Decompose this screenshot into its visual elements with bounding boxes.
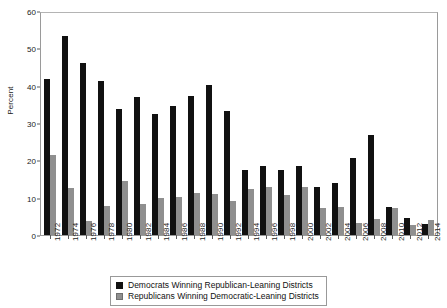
y-tick-mark bbox=[37, 161, 40, 162]
x-tick-mark bbox=[230, 235, 231, 239]
legend-label-republicans: Republicans Winning Democratic-Leaning D… bbox=[128, 291, 319, 302]
x-tick-mark bbox=[248, 235, 249, 239]
x-tick-mark bbox=[158, 235, 159, 239]
x-tick-mark bbox=[338, 235, 339, 239]
x-tick-label: 1972 bbox=[53, 223, 62, 241]
x-tick-mark bbox=[176, 235, 177, 239]
bar-group bbox=[311, 13, 329, 235]
y-tick-label: 30 bbox=[14, 120, 36, 129]
x-tick-label: 1996 bbox=[270, 223, 279, 241]
bars-layer bbox=[41, 13, 437, 235]
y-tick-mark bbox=[37, 124, 40, 125]
y-tick-label: 10 bbox=[14, 194, 36, 203]
bar-group bbox=[77, 13, 95, 235]
y-tick-label: 50 bbox=[14, 45, 36, 54]
legend-swatch-democrats-icon bbox=[116, 282, 123, 289]
x-tick-label: 2010 bbox=[397, 223, 406, 241]
bar-group bbox=[401, 13, 419, 235]
x-tick-mark bbox=[392, 235, 393, 239]
bar-group bbox=[149, 13, 167, 235]
x-tick-mark bbox=[428, 235, 429, 239]
x-tick-label: 1992 bbox=[234, 223, 243, 241]
x-tick-mark bbox=[356, 235, 357, 239]
bar-group bbox=[59, 13, 77, 235]
x-tick-label: 2006 bbox=[361, 223, 370, 241]
x-tick-label: 2000 bbox=[306, 223, 315, 241]
x-tick-label: 1986 bbox=[180, 223, 189, 241]
plot-area bbox=[40, 12, 438, 236]
x-tick-mark bbox=[122, 235, 123, 239]
x-tick-mark bbox=[320, 235, 321, 239]
y-tick-mark bbox=[37, 12, 40, 13]
legend-label-democrats: Democrats Winning Republican-Leaning Dis… bbox=[128, 280, 313, 291]
x-tick-mark bbox=[140, 235, 141, 239]
y-tick-label: 40 bbox=[14, 82, 36, 91]
chart-legend: Democrats Winning Republican-Leaning Dis… bbox=[110, 276, 327, 306]
x-tick-label: 2014 bbox=[433, 223, 442, 241]
bar-group bbox=[239, 13, 257, 235]
bar-group bbox=[347, 13, 365, 235]
y-tick-mark bbox=[37, 86, 40, 87]
plot-inner bbox=[41, 13, 437, 235]
bar-chart: Percent 0102030405060 197219741976197819… bbox=[0, 0, 447, 308]
legend-item: Democrats Winning Republican-Leaning Dis… bbox=[116, 280, 319, 291]
x-tick-mark bbox=[194, 235, 195, 239]
bar-group bbox=[185, 13, 203, 235]
x-tick-mark bbox=[302, 235, 303, 239]
x-tick-label: 1976 bbox=[89, 223, 98, 241]
x-tick-label: 1990 bbox=[216, 223, 225, 241]
bar-group bbox=[131, 13, 149, 235]
bar-group bbox=[293, 13, 311, 235]
legend-item: Republicans Winning Democratic-Leaning D… bbox=[116, 291, 319, 302]
bar-group bbox=[383, 13, 401, 235]
x-tick-label: 1994 bbox=[252, 223, 261, 241]
y-tick-label: 0 bbox=[14, 232, 36, 241]
x-tick-label: 1978 bbox=[107, 223, 116, 241]
bar-group bbox=[203, 13, 221, 235]
bar-group bbox=[419, 13, 437, 235]
y-tick-label: 60 bbox=[14, 8, 36, 17]
x-tick-label: 1998 bbox=[288, 223, 297, 241]
x-tick-label: 1974 bbox=[71, 223, 80, 241]
bar-democrats bbox=[80, 63, 86, 235]
bar-group bbox=[257, 13, 275, 235]
x-tick-label: 1988 bbox=[198, 223, 207, 241]
bar-group bbox=[167, 13, 185, 235]
bar-group bbox=[95, 13, 113, 235]
x-tick-label: 1982 bbox=[144, 223, 153, 241]
x-tick-mark bbox=[284, 235, 285, 239]
x-tick-mark bbox=[410, 235, 411, 239]
y-tick-mark bbox=[37, 49, 40, 50]
y-tick-label: 20 bbox=[14, 157, 36, 166]
y-tick-mark bbox=[37, 236, 40, 237]
x-tick-mark bbox=[104, 235, 105, 239]
bar-group bbox=[41, 13, 59, 235]
legend-swatch-republicans-icon bbox=[116, 293, 123, 300]
bar-group bbox=[365, 13, 383, 235]
x-tick-mark bbox=[212, 235, 213, 239]
x-tick-label: 2008 bbox=[379, 223, 388, 241]
x-tick-label: 1980 bbox=[125, 223, 134, 241]
x-tick-mark bbox=[266, 235, 267, 239]
bar-group bbox=[221, 13, 239, 235]
bar-group bbox=[113, 13, 131, 235]
x-tick-label: 2012 bbox=[415, 223, 424, 241]
bar-group bbox=[329, 13, 347, 235]
x-tick-mark bbox=[50, 235, 51, 239]
x-tick-mark bbox=[68, 235, 69, 239]
x-tick-mark bbox=[374, 235, 375, 239]
bar-group bbox=[275, 13, 293, 235]
x-tick-mark bbox=[86, 235, 87, 239]
x-tick-label: 1984 bbox=[162, 223, 171, 241]
x-tick-label: 2004 bbox=[343, 223, 352, 241]
y-tick-mark bbox=[37, 198, 40, 199]
x-tick-label: 2002 bbox=[324, 223, 333, 241]
